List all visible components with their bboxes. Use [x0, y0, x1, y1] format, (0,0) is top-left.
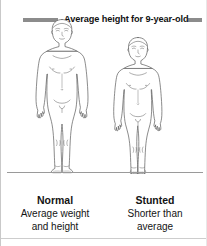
caption-stunted: Stunted Shorter than average	[105, 193, 205, 233]
figure-normal-child	[31, 18, 93, 174]
caption-stunted-line2: average	[105, 220, 205, 233]
caption-stunted-line1: Shorter than	[105, 207, 205, 220]
bottom-divider	[1, 238, 207, 239]
ground-baseline	[7, 172, 203, 173]
caption-normal-line1: Average weight	[5, 207, 105, 220]
caption-stunted-title: Stunted	[105, 193, 205, 207]
stunting-comparison-diagram: Average height for 9-year-old	[0, 0, 207, 246]
caption-normal: Normal Average weight and height	[5, 193, 105, 233]
caption-normal-line2: and height	[5, 220, 105, 233]
caption-normal-title: Normal	[5, 193, 105, 207]
reference-line-right-segment	[188, 18, 202, 22]
figure-stunted-child	[109, 36, 167, 174]
